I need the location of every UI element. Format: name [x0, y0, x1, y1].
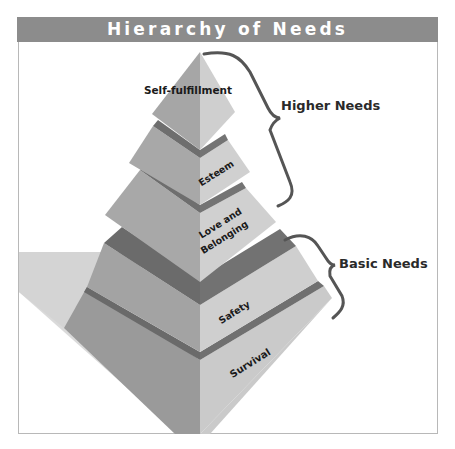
pyramid-diagram: Self-fulfillment Esteem Love and Belongi… — [0, 0, 455, 449]
tier-label-self-fulfillment: Self-fulfillment — [144, 84, 232, 96]
higher-needs-label: Higher Needs — [281, 98, 380, 113]
basic-needs-label: Basic Needs — [339, 256, 428, 271]
